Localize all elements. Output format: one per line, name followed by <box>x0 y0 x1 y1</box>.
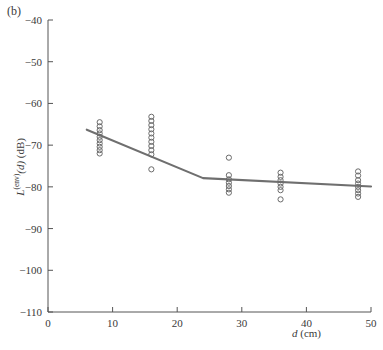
data-point <box>355 194 360 199</box>
data-point <box>226 190 231 195</box>
figure-panel-b: (b) L(env)(d) (dB) d (cm) −40−50−60−70−8… <box>0 0 383 350</box>
data-point <box>226 155 231 160</box>
y-axis-argument: (d) <box>14 161 26 174</box>
x-tick-label: 0 <box>33 317 63 329</box>
plot-canvas <box>0 0 383 350</box>
y-axis-title: L(env)(d) (dB) <box>12 112 26 222</box>
data-point <box>149 167 154 172</box>
x-tick-label: 50 <box>356 317 383 329</box>
x-tick-label: 20 <box>162 317 192 329</box>
y-tick-label: −70 <box>8 139 42 151</box>
x-tick-label: 10 <box>98 317 128 329</box>
y-tick-label: −100 <box>8 264 42 276</box>
y-tick-label: −50 <box>8 56 42 68</box>
y-tick-label: −40 <box>8 14 42 26</box>
data-point <box>278 188 283 193</box>
x-tick-label: 40 <box>291 317 321 329</box>
y-tick-label: −90 <box>8 223 42 235</box>
x-tick-label: 30 <box>227 317 257 329</box>
data-point <box>278 197 283 202</box>
y-tick-label: −60 <box>8 97 42 109</box>
data-point <box>97 151 102 156</box>
y-tick-label: −80 <box>8 181 42 193</box>
